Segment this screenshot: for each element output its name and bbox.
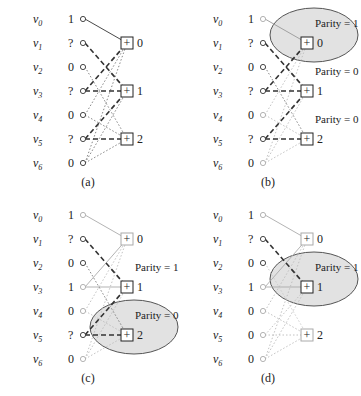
variable-value: 0 [68,256,74,270]
plus-icon: + [304,132,311,146]
variable-label: v3 [213,280,222,296]
parity-label: Parity = 1 [135,261,178,273]
parity-label: Parity = 0 [315,65,359,77]
variable-subscript: 5 [218,139,222,148]
variable-label: v4 [33,304,42,320]
variable-subscript: 6 [218,163,222,172]
check-label: 2 [137,328,143,342]
variable-label: v6 [33,352,42,368]
edge-line [265,91,307,139]
variable-subscript: 5 [38,335,42,344]
variable-value: 0 [248,304,254,318]
variable-subscript: 0 [218,215,222,224]
variable-value: 1 [68,12,74,26]
plus-icon: + [124,36,131,50]
variable-label: v5 [213,132,222,148]
variable-subscript: 1 [38,43,42,52]
variable-node [80,356,85,361]
variable-label: v4 [33,108,42,124]
variable-value: 0 [248,352,254,366]
variable-value: 1 [68,208,74,222]
parity-label: Parity = 1 [315,17,358,29]
variable-subscript: 3 [217,287,222,296]
variable-subscript: 4 [38,311,42,320]
variable-subscript: 2 [218,67,222,76]
variable-value: 0 [68,352,74,366]
variable-subscript: 1 [38,239,42,248]
variable-value: ? [248,232,253,246]
variable-label: v1 [33,232,42,248]
variable-node [80,112,85,117]
variable-value: 0 [68,304,74,318]
variable-node [80,16,85,21]
variable-label: v6 [213,156,222,172]
variable-value: 0 [68,60,74,74]
variable-label: v0 [213,12,222,28]
variable-label: v0 [213,208,222,224]
variable-label: v5 [213,328,222,344]
panel-b: v01v1?v20v3?v40v5?v60+0+1+2Parity = 1Par… [213,8,359,189]
variable-node [80,136,85,141]
variable-label: v6 [213,352,222,368]
variable-subscript: 2 [38,67,42,76]
edge-line [265,91,307,163]
variable-label: v1 [213,232,222,248]
variable-label: v1 [213,36,222,52]
parity-label: Parity = 0 [315,113,359,125]
variable-label: v6 [33,156,42,172]
variable-node [260,160,265,165]
variable-value: ? [68,328,73,342]
variable-label: v3 [33,280,42,296]
variable-value: ? [68,84,73,98]
variable-value: ? [248,84,253,98]
variable-value: 1 [248,208,254,222]
check-label: 2 [317,132,323,146]
variable-value: 1 [248,280,254,294]
variable-label: v5 [33,132,42,148]
variable-value: 0 [68,156,74,170]
plus-icon: + [124,84,131,98]
variable-node [80,64,85,69]
variable-node [260,136,265,141]
variable-label: v2 [213,256,222,272]
variable-node [260,284,265,289]
variable-label: v1 [33,36,42,52]
variable-node [260,88,265,93]
variable-subscript: 4 [218,311,222,320]
variable-label: v2 [33,256,42,272]
variable-label: v2 [213,60,222,76]
variable-subscript: 6 [218,359,222,368]
panel-caption: (a) [81,175,94,189]
variable-value: ? [68,232,73,246]
variable-node [260,356,265,361]
variable-subscript: 0 [38,19,42,28]
variable-value: 0 [68,108,74,122]
edge-line [85,91,127,139]
variable-subscript: 2 [218,263,222,272]
panel-a: v01v1?v20v3?v40v5?v60+0+1+2(a) [33,12,143,189]
variable-subscript: 1 [218,43,222,52]
plus-icon: + [124,132,131,146]
variable-subscript: 6 [38,163,42,172]
plus-icon: + [304,84,311,98]
variable-subscript: 4 [218,115,222,124]
variable-subscript: 3 [37,91,42,100]
variable-value: 0 [248,108,254,122]
variable-subscript: 2 [38,263,42,272]
variable-node [260,64,265,69]
check-label: 1 [317,84,323,98]
variable-value: ? [68,36,73,50]
variable-node [80,260,85,265]
variable-node [260,16,265,21]
variable-value: 0 [248,256,254,270]
panel-caption: (b) [261,175,275,189]
plus-icon: + [304,36,311,50]
edge-line [85,91,127,163]
panel-caption: (c) [81,371,94,385]
variable-node [80,160,85,165]
parity-label: Parity = 1 [315,261,358,273]
variable-value: 0 [248,328,254,342]
plus-icon: + [124,232,131,246]
variable-label: v0 [33,12,42,28]
variable-label: v2 [33,60,42,76]
